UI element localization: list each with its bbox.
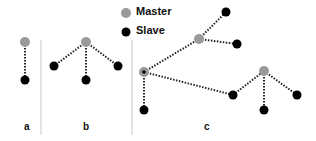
legend-slave-icon	[122, 28, 131, 37]
slave-node	[82, 76, 91, 85]
slave-node	[260, 106, 269, 115]
slave-node	[114, 62, 123, 71]
legend-master-icon	[121, 8, 131, 18]
topology-diagram	[0, 0, 316, 141]
master-node	[194, 34, 204, 44]
slave-node	[50, 62, 59, 71]
slave-node	[293, 91, 302, 100]
slave-node	[140, 106, 149, 115]
slave-node	[222, 8, 231, 17]
panel-label-b: b	[83, 121, 89, 132]
master-node	[20, 37, 30, 47]
slave-node	[21, 76, 30, 85]
legend-slave-label: Slave	[136, 24, 165, 36]
panel-label-a: a	[24, 121, 30, 132]
master-node	[259, 66, 269, 76]
slave-node	[233, 40, 242, 49]
slave-node	[229, 91, 238, 100]
master-slave-node-center	[142, 70, 146, 74]
panel-label-c: c	[204, 121, 210, 132]
legend-master-label: Master	[136, 5, 171, 17]
master-node	[81, 37, 91, 47]
